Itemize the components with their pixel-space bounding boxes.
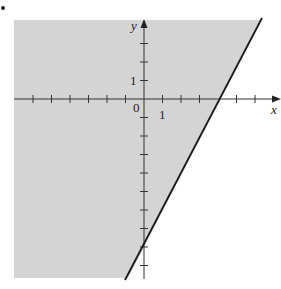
inequality-graph: y x 0 1 1	[0, 0, 281, 289]
y-axis-label: y	[129, 18, 137, 33]
y-tick-label-1: 1	[130, 73, 137, 88]
bullet-dot	[1, 6, 5, 10]
shaded-region	[14, 20, 261, 278]
x-axis-label: x	[270, 102, 277, 117]
origin-label: 0	[133, 100, 140, 115]
x-tick-label-1: 1	[159, 107, 166, 122]
